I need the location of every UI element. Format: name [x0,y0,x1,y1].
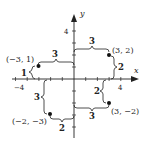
x-tick-label-4: 4 [118,84,123,92]
brace-p4-horizontal-label: 2 [59,123,65,133]
point-label-3-2: (3, 2) [112,46,134,55]
point-neg2-neg3 [48,112,52,116]
brace-p1-horizontal [74,46,109,52]
coordinate-plane-diagram: y x −4 4 4 (3, 2) 3 2 (−3, 1) 3 1 (3, −2… [0,0,149,144]
y-tick-label-4: 4 [64,28,69,36]
x-tick-label-neg4: −4 [14,84,25,92]
x-axis-arrow-icon [131,76,139,82]
brace-p3-vertical-label: 2 [94,86,100,96]
brace-p4-horizontal [50,116,74,122]
point-3-neg2 [107,101,111,105]
point-neg3-1 [37,64,41,68]
brace-p3-horizontal-label: 3 [89,111,95,121]
brace-p1-vertical [111,56,117,79]
brace-p1-vertical-label: 2 [118,62,124,72]
y-axis-label: y [79,9,85,18]
x-axis-label: x [134,66,139,75]
brace-p2-horizontal [38,59,74,65]
point-3-2 [107,53,111,57]
brace-p2-vertical [29,66,35,79]
brace-p1-horizontal-label: 3 [89,36,95,46]
point-label-neg2-neg3: (−2, −3) [12,117,47,126]
brace-p4-vertical [41,80,47,114]
brace-p3-vertical [100,80,106,103]
brace-p2-vertical-label: 1 [21,68,27,78]
y-axis-arrow-icon [71,14,77,22]
brace-p2-horizontal-label: 3 [52,49,58,59]
point-label-3-neg2: (3, −2) [111,107,139,116]
brace-p4-vertical-label: 3 [34,92,40,102]
point-label-neg3-1: (−3, 1) [6,55,34,64]
